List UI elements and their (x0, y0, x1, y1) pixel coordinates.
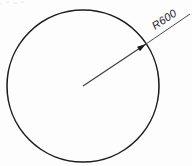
radius-leader-line (83, 44, 146, 86)
drawing-svg: R600 (0, 0, 192, 166)
arrow-head-icon (137, 44, 146, 51)
drawing-canvas: R600 (0, 0, 192, 166)
background-speckle (0, 1, 24, 5)
radius-dimension-label: R600 (149, 6, 179, 31)
dimension-text-group: R600 (149, 6, 179, 31)
